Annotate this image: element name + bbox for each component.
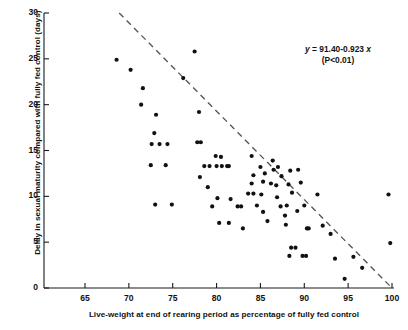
- data-point: [193, 49, 197, 53]
- data-point: [149, 163, 153, 167]
- data-point: [299, 180, 303, 184]
- data-point: [329, 232, 333, 236]
- data-point: [343, 277, 347, 281]
- data-point: [198, 175, 202, 179]
- x-tick-label: 95: [333, 293, 363, 303]
- x-tick-label: 75: [158, 293, 188, 303]
- data-point: [214, 154, 218, 158]
- data-point: [271, 158, 275, 162]
- x-tick-label: 65: [70, 293, 100, 303]
- data-point: [141, 86, 145, 90]
- data-point: [246, 191, 250, 195]
- data-point: [360, 266, 364, 270]
- data-point: [261, 210, 265, 214]
- data-point: [289, 246, 293, 250]
- data-point: [206, 185, 210, 189]
- data-point: [286, 182, 290, 186]
- data-point: [284, 223, 288, 227]
- data-point: [263, 171, 267, 175]
- x-tick-label: 100: [377, 293, 407, 303]
- data-point: [283, 213, 287, 217]
- data-point: [321, 224, 325, 228]
- data-point: [271, 168, 275, 172]
- y-axis-title: Delay in sexual maturity compared with f…: [33, 3, 42, 263]
- data-point: [279, 174, 283, 178]
- data-point: [288, 169, 292, 173]
- data-point: [165, 142, 169, 146]
- data-point: [219, 155, 223, 159]
- data-point: [293, 246, 297, 250]
- data-point: [164, 163, 168, 167]
- regression-equation: y = 91.40-0.923 x: [305, 44, 371, 54]
- data-point: [304, 254, 308, 258]
- data-point: [220, 164, 224, 168]
- data-point: [114, 58, 118, 62]
- data-point: [258, 165, 262, 169]
- data-point: [170, 202, 174, 206]
- data-point: [199, 140, 203, 144]
- data-point: [255, 203, 259, 207]
- data-point: [259, 192, 263, 196]
- data-point: [157, 142, 161, 146]
- data-point: [261, 180, 265, 184]
- data-point: [241, 226, 245, 230]
- y-tick-label: 0: [14, 282, 38, 292]
- data-point: [265, 219, 269, 223]
- data-point: [154, 113, 158, 117]
- x-axis-title: Live-weight at end of rearing period as …: [44, 310, 404, 319]
- data-point: [274, 183, 278, 187]
- data-point: [290, 191, 294, 195]
- data-point: [139, 103, 143, 107]
- data-point: [250, 181, 254, 185]
- x-tick-label: 70: [114, 293, 144, 303]
- data-point: [315, 192, 319, 196]
- data-point: [275, 195, 279, 199]
- x-tick-label: 85: [245, 293, 275, 303]
- data-point: [276, 165, 280, 169]
- significance-value: (P<0.01): [276, 55, 400, 66]
- data-point: [217, 221, 221, 225]
- data-point: [279, 204, 283, 208]
- data-point: [210, 204, 214, 208]
- data-point: [214, 164, 218, 168]
- data-point: [153, 202, 157, 206]
- data-point: [227, 164, 231, 168]
- data-point: [302, 203, 306, 207]
- data-point: [287, 254, 291, 258]
- data-point: [197, 110, 201, 114]
- data-point: [181, 76, 185, 80]
- data-point: [285, 203, 289, 207]
- data-point: [269, 181, 273, 185]
- scatter-plot-figure: 051015202530 65707580859095100 Delay in …: [0, 0, 408, 330]
- data-point: [295, 209, 299, 213]
- data-point: [215, 196, 219, 200]
- data-point: [239, 204, 243, 208]
- data-point: [227, 221, 231, 225]
- data-point: [150, 142, 154, 146]
- data-point: [307, 226, 311, 230]
- data-point: [296, 168, 300, 172]
- data-point: [251, 173, 255, 177]
- data-point: [207, 164, 211, 168]
- data-point: [251, 191, 255, 195]
- data-point: [152, 131, 156, 135]
- x-tick-label: 90: [289, 293, 319, 303]
- data-point: [388, 241, 392, 245]
- data-point: [351, 255, 355, 259]
- data-point: [386, 192, 390, 196]
- data-point: [229, 197, 233, 201]
- data-point: [333, 257, 337, 261]
- data-point: [202, 164, 206, 168]
- data-point: [250, 154, 254, 158]
- data-point: [129, 68, 133, 72]
- regression-annotation: y = 91.40-0.923 x (P<0.01): [276, 44, 400, 65]
- x-tick-label: 80: [202, 293, 232, 303]
